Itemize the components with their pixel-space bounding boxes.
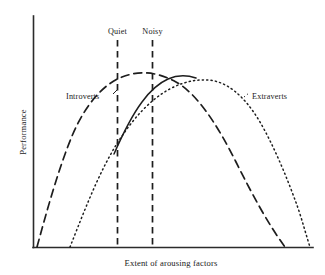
series-label-extraverts: Extraverts <box>252 92 287 101</box>
y-axis-title: Performance <box>18 109 28 155</box>
reference-label-noisy: Noisy <box>142 27 163 36</box>
x-axis-title: Extent of arousing factors <box>125 258 218 268</box>
chart-container: Quiet Noisy Introverts Extraverts Perfor… <box>0 0 325 275</box>
reference-label-quiet: Quiet <box>108 27 128 36</box>
performance-arousal-chart: Quiet Noisy Introverts Extraverts Perfor… <box>0 0 325 275</box>
series-label-introverts: Introverts <box>66 92 99 101</box>
